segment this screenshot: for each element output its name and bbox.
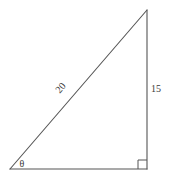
right-angle-marker-icon: [138, 160, 147, 169]
geometry-figure: 20 15 θ: [0, 0, 169, 187]
vertical-side-label: 15: [151, 83, 161, 94]
angle-theta-label: θ: [20, 158, 25, 169]
hypotenuse-label: 20: [53, 80, 68, 95]
triangle-diagram: 20 15 θ: [0, 0, 169, 187]
hypotenuse-line: [10, 10, 147, 169]
